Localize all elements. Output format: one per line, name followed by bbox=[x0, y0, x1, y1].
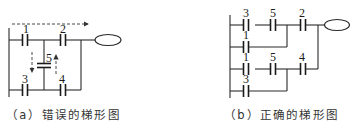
contact-label: 1 bbox=[243, 28, 249, 42]
caption-b: （b）正确的梯形图 bbox=[224, 106, 339, 122]
contact-label-1: 1 bbox=[23, 22, 29, 36]
contact-2 bbox=[301, 19, 306, 31]
contact-5 bbox=[271, 19, 276, 31]
contact-label: 5 bbox=[270, 50, 276, 64]
contact-label: 5 bbox=[270, 6, 276, 20]
contact-label: 4 bbox=[299, 50, 305, 64]
contact-label-3: 3 bbox=[22, 72, 28, 86]
contact-label-2: 2 bbox=[60, 22, 66, 36]
contact-label: 3 bbox=[243, 72, 249, 86]
ladder-diagram-wrong: 1 2 5 3 4 bbox=[9, 22, 121, 97]
output-coil bbox=[325, 20, 350, 31]
contact-3 bbox=[244, 85, 249, 97]
contact-label: 3 bbox=[243, 6, 249, 20]
contact-label: 1 bbox=[243, 50, 249, 64]
contact-label: 2 bbox=[299, 6, 305, 20]
contact-label-5: 5 bbox=[46, 51, 52, 65]
contact-5 bbox=[271, 63, 276, 75]
contact-label-4: 4 bbox=[59, 72, 65, 86]
caption-a: （a）错误的梯形图 bbox=[6, 106, 121, 122]
contact-4 bbox=[301, 63, 306, 75]
output-coil bbox=[95, 35, 121, 46]
ladder-diagram-correct: 3 5 2 1 1 bbox=[230, 6, 350, 98]
